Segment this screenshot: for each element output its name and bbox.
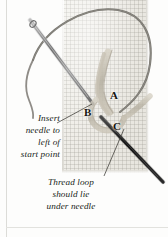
caption-insert-needle-line-4: start point <box>4 148 60 160</box>
thread-tail-left <box>26 60 33 118</box>
caption-insert-needle-line-1: Insert <box>4 112 60 124</box>
lower-needle <box>101 117 163 182</box>
caption-thread-loop: Thread loop should lie under needle <box>34 176 108 212</box>
point-label-b: B <box>84 107 91 118</box>
figure-page: A B C Insert needle to left of start poi… <box>0 0 168 237</box>
upper-needle <box>29 20 93 104</box>
point-label-a: A <box>110 90 118 101</box>
caption-insert-needle-line-3: left of <box>4 136 60 148</box>
caption-thread-loop-line-2: should lie <box>34 188 108 200</box>
caption-insert-needle-line-2: needle to <box>4 124 60 136</box>
caption-thread-loop-line-3: under needle <box>34 200 108 212</box>
caption-thread-loop-line-1: Thread loop <box>34 176 108 188</box>
leader-line-thread-loop <box>104 129 124 176</box>
thread-arc-top <box>33 9 151 112</box>
point-label-c: C <box>113 121 121 132</box>
caption-insert-needle: Insert needle to left of start point <box>4 112 60 160</box>
